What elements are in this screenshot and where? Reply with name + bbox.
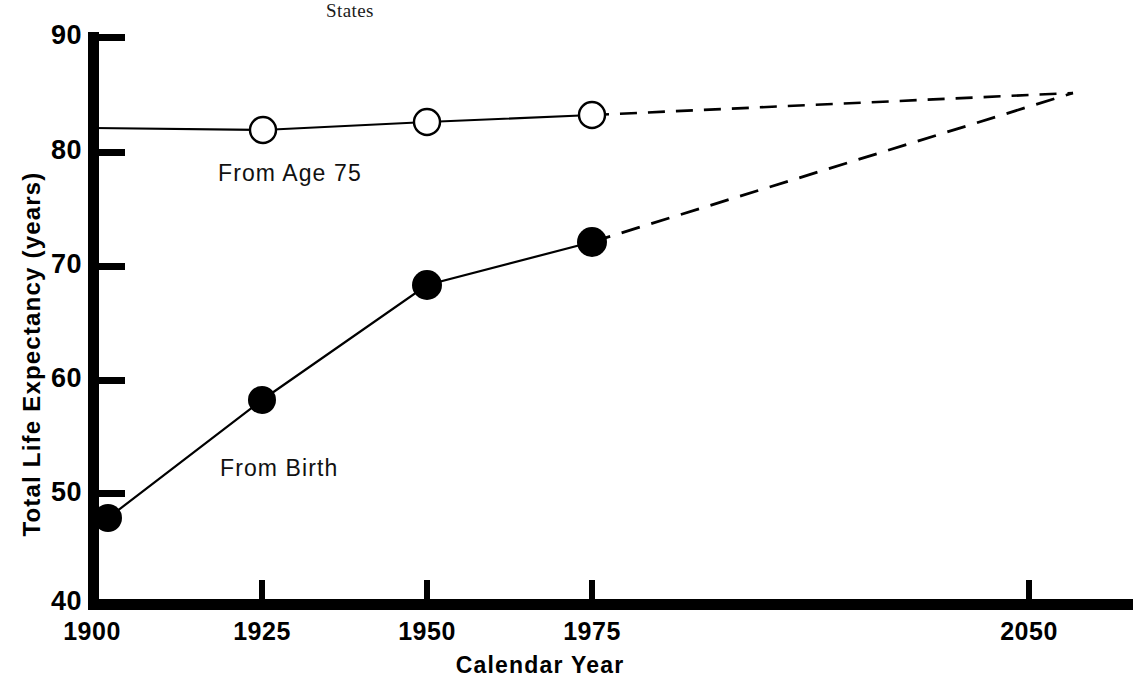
data-point-filled: [248, 386, 276, 414]
data-point-open: [579, 102, 605, 128]
data-point-filled: [94, 504, 122, 532]
series-from-birth: [94, 93, 1073, 532]
series-from-age-75: [94, 93, 1073, 143]
chart-figure: States Total Life Expectancy (years) Cal…: [0, 0, 1134, 690]
data-point-open: [250, 117, 276, 143]
y-axis-ticks: [99, 34, 125, 497]
axis-lines: [88, 32, 1133, 610]
chart-plot-area: [0, 0, 1134, 690]
data-point-filled: [412, 270, 442, 300]
x-axis-ticks: [259, 580, 1032, 600]
projection-dashed-from-age-75: [592, 93, 1073, 115]
data-point-open: [414, 109, 440, 135]
projection-dashed-from-birth: [592, 93, 1073, 242]
data-point-filled: [577, 227, 607, 257]
